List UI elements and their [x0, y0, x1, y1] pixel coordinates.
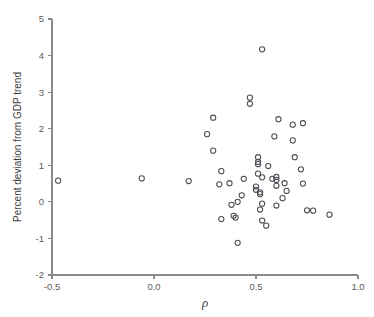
data-point — [311, 208, 316, 213]
data-point — [266, 163, 271, 168]
data-point — [282, 181, 287, 186]
x-tick-label: 0.5 — [249, 281, 262, 292]
x-axis-title: ρ — [201, 295, 208, 310]
data-point — [56, 178, 61, 183]
data-point — [292, 155, 297, 160]
data-point — [290, 122, 295, 127]
data-point — [219, 216, 224, 221]
data-point-group — [56, 47, 333, 246]
data-point — [327, 212, 332, 217]
x-axis-ticks: -0.50.00.51.0 — [44, 275, 365, 292]
y-tick-label: 3 — [39, 87, 44, 98]
x-tick-label: 1.0 — [351, 281, 364, 292]
data-point — [272, 134, 277, 139]
y-tick-label: -1 — [36, 233, 44, 244]
y-tick-label: 0 — [39, 196, 44, 207]
y-tick-label: 4 — [39, 50, 44, 61]
x-tick-label: 0.0 — [147, 281, 160, 292]
data-point — [274, 203, 279, 208]
data-point — [274, 183, 279, 188]
data-point — [300, 181, 305, 186]
y-tick-label: -2 — [36, 269, 44, 280]
data-point — [247, 95, 252, 100]
data-point — [239, 193, 244, 198]
data-point — [304, 208, 309, 213]
data-point — [235, 199, 240, 204]
data-point — [260, 201, 265, 206]
data-point — [227, 181, 232, 186]
data-point — [235, 240, 240, 245]
data-point — [290, 138, 295, 143]
scatter-chart-figure: -2-1012345 -0.50.00.51.0 Percent deviati… — [0, 0, 374, 317]
data-point — [298, 167, 303, 172]
data-point — [219, 169, 224, 174]
data-point — [211, 148, 216, 153]
data-point — [257, 207, 262, 212]
data-point — [241, 176, 246, 181]
data-point — [260, 218, 265, 223]
data-point — [284, 188, 289, 193]
y-axis-title: Percent deviation from GDP trend — [12, 72, 23, 222]
data-point — [260, 47, 265, 52]
data-point — [229, 202, 234, 207]
data-point — [211, 115, 216, 120]
y-tick-label: 2 — [39, 123, 44, 134]
y-tick-label: 1 — [39, 160, 44, 171]
y-axis-ticks: -2-1012345 — [36, 13, 52, 280]
data-point — [300, 121, 305, 126]
x-tick-label: -0.5 — [44, 281, 60, 292]
data-point — [217, 182, 222, 187]
data-point — [280, 196, 285, 201]
data-point — [186, 178, 191, 183]
data-point — [139, 176, 144, 181]
y-tick-label: 5 — [39, 13, 44, 24]
data-point — [264, 223, 269, 228]
data-point — [247, 101, 252, 106]
data-point — [204, 132, 209, 137]
data-point — [260, 175, 265, 180]
plot-canvas: -2-1012345 -0.50.00.51.0 Percent deviati… — [0, 0, 374, 317]
data-point — [276, 117, 281, 122]
